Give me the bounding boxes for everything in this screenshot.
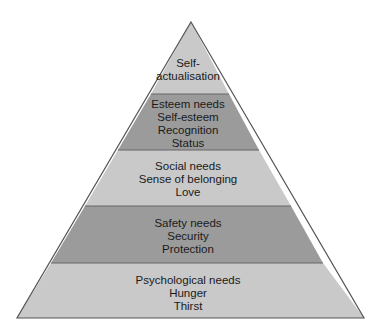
label-line: Security	[0, 230, 376, 243]
label-line: Sense of belonging	[0, 173, 376, 186]
label-line: Recognition	[0, 124, 376, 137]
level-safety-label: Safety needs Security Protection	[0, 217, 376, 256]
level-esteem-label: Esteem needs Self-esteem Recognition Sta…	[0, 98, 376, 150]
label-line: actualisation	[0, 70, 376, 83]
level-self-actualisation-label: Self- actualisation	[0, 57, 376, 83]
label-line: Esteem needs	[0, 98, 376, 111]
label-line: Safety needs	[0, 217, 376, 230]
label-line: Self-esteem	[0, 111, 376, 124]
label-line: Protection	[0, 243, 376, 256]
label-line: Hunger	[0, 287, 376, 300]
label-line: Self-	[0, 57, 376, 70]
label-line: Social needs	[0, 160, 376, 173]
label-line: Thirst	[0, 300, 376, 313]
level-social-label: Social needs Sense of belonging Love	[0, 160, 376, 199]
label-line: Status	[0, 137, 376, 150]
level-psychological-label: Psychological needs Hunger Thirst	[0, 274, 376, 313]
label-line: Love	[0, 186, 376, 199]
label-line: Psychological needs	[0, 274, 376, 287]
